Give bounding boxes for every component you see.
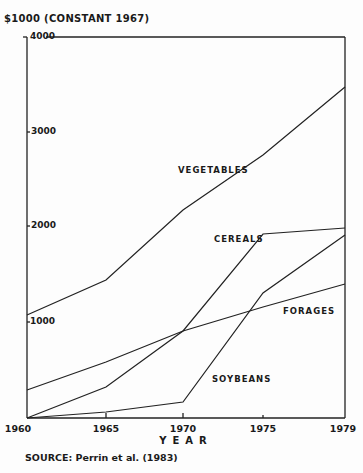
y-tick-4000: 4000 <box>30 31 55 41</box>
label-soybeans: SOYBEANS <box>212 374 271 384</box>
y-tick-3000: 3000 <box>31 126 56 136</box>
y-tick-1000: 1000 <box>30 316 55 326</box>
label-forages: FORAGES <box>283 306 335 316</box>
x-tick-1965: 1965 <box>93 423 119 434</box>
x-axis-title: YEAR <box>159 435 213 446</box>
label-vegetables: VEGETABLES <box>178 165 249 175</box>
x-tick-1975: 1975 <box>250 423 276 434</box>
x-tick-1960: 1960 <box>5 423 31 434</box>
y-tick-2000: 2000 <box>31 220 56 230</box>
label-cereals: CEREALS <box>214 234 264 244</box>
line-chart <box>0 0 363 473</box>
series-forages <box>27 284 345 390</box>
series-vegetables <box>27 87 345 315</box>
x-tick-1979: 1979 <box>330 423 356 434</box>
series-cereals <box>27 228 345 418</box>
source-note: SOURCE: Perrin et al. (1983) <box>25 452 178 463</box>
x-tick-1970: 1970 <box>170 423 196 434</box>
